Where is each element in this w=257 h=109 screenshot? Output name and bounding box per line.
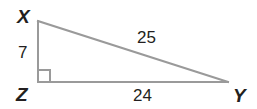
vertex-label-z: Z <box>16 85 28 104</box>
geometry-figure: X Z Y 7 25 24 <box>0 0 257 109</box>
vertex-label-x: X <box>17 7 30 26</box>
side-hypotenuse-xy <box>38 21 228 82</box>
vertex-label-y: Y <box>233 86 246 105</box>
right-angle-marker-icon <box>38 70 50 82</box>
right-triangle-drawing <box>0 0 257 109</box>
side-length-label-hypotenuse: 25 <box>137 29 156 46</box>
side-length-label-horizontal-leg: 24 <box>133 87 152 104</box>
side-length-label-vertical-leg: 7 <box>18 44 27 61</box>
